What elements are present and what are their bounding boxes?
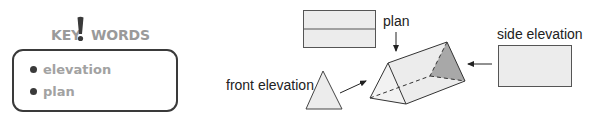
- front-elevation-label: front elevation: [226, 78, 314, 92]
- front-elevation-arrow: [340, 81, 366, 93]
- plan-label: plan: [383, 14, 409, 28]
- plan-view: [304, 11, 376, 48]
- triangular-prism: [370, 42, 465, 104]
- side-elevation-view: [499, 46, 572, 87]
- prism-views-diagram: [0, 0, 590, 127]
- side-elevation-label: side elevation: [497, 27, 583, 41]
